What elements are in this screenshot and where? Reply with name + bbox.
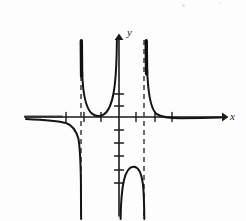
curve-right-branch	[146, 40, 221, 118]
curve-middle-u-branch	[81, 40, 117, 116]
x-axis-label: x	[230, 110, 235, 122]
x-axis-group	[25, 113, 229, 122]
function-graph-svg	[0, 0, 246, 221]
scan-speck	[182, 4, 185, 7]
y-axis-arrowhead	[115, 34, 124, 41]
math-figure: y x	[0, 0, 246, 221]
curve-left-branch	[26, 119, 81, 219]
vertical-asymptotes	[81, 40, 144, 219]
scan-speck	[219, 2, 221, 4]
x-axis-arrowhead	[222, 113, 229, 122]
y-axis-label: y	[127, 26, 132, 38]
curve-ink-thickening	[81, 41, 146, 76]
curve-lower-arch-branch	[121, 167, 145, 219]
